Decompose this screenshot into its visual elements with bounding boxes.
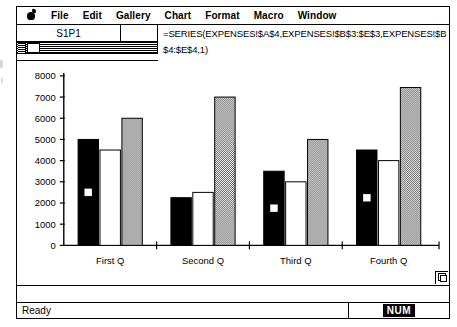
x-axis-category-label: First Q	[96, 255, 124, 266]
bar[interactable]	[215, 97, 235, 245]
menu-item-edit[interactable]: Edit	[76, 7, 109, 24]
status-indicators: NUM	[349, 303, 449, 318]
scan-artifact	[1, 78, 3, 83]
menu-item-window[interactable]: Window	[291, 7, 344, 24]
scrollbar-thumb[interactable]	[27, 43, 40, 53]
series-selection-handle[interactable]	[363, 194, 370, 201]
menu-item-file[interactable]: File	[44, 7, 76, 24]
grow-box-front-square	[440, 275, 447, 282]
excel-chart-window: File Edit Gallery Chart Format Macro Win…	[16, 6, 450, 308]
bar[interactable]	[122, 118, 142, 245]
status-message: Ready	[17, 303, 349, 318]
series-selection-handle[interactable]	[270, 205, 277, 212]
num-lock-badge: NUM	[383, 304, 415, 317]
window-grow-box[interactable]	[435, 271, 448, 284]
series-selection-handle[interactable]	[85, 189, 92, 196]
x-axis-category-label: Second Q	[182, 255, 224, 266]
horizontal-scrollbar[interactable]	[17, 42, 158, 54]
y-axis-tick-label: 0	[51, 240, 56, 251]
menu-item-gallery[interactable]: Gallery	[109, 7, 158, 24]
formula-input[interactable]: =SERIES(EXPENSES!$A$4,EXPENSES!$B$3:$E$3…	[158, 25, 449, 61]
name-box[interactable]: S1P1	[17, 25, 121, 42]
x-axis-category-label: Fourth Q	[370, 255, 407, 266]
menu-item-chart[interactable]: Chart	[158, 7, 199, 24]
y-axis-tick-label: 4000	[35, 155, 56, 166]
bar[interactable]	[171, 198, 191, 246]
scan-artifact	[0, 60, 3, 68]
y-axis-tick-label: 8000	[35, 70, 56, 81]
y-axis-tick-label: 2000	[35, 197, 56, 208]
bar-chart[interactable]: 010002000300040005000600070008000First Q…	[17, 62, 449, 285]
menu-bar: File Edit Gallery Chart Format Macro Win…	[17, 7, 449, 25]
bar[interactable]	[400, 88, 420, 246]
bar[interactable]	[308, 139, 328, 245]
bar[interactable]	[378, 161, 398, 246]
y-axis-tick-label: 5000	[35, 134, 56, 145]
status-bar: Ready NUM	[16, 302, 450, 319]
x-axis-category-label: Third Q	[280, 255, 311, 266]
bar[interactable]	[193, 192, 213, 245]
menu-item-format[interactable]: Format	[198, 7, 247, 24]
formula-bar-button-area	[121, 25, 158, 42]
formula-bar: S1P1 =SERIES(EXPENSES!$A$4,EXPENSES!$B$3…	[17, 25, 449, 61]
y-axis-tick-label: 6000	[35, 113, 56, 124]
menu-item-macro[interactable]: Macro	[247, 7, 291, 24]
y-axis-tick-label: 7000	[35, 92, 56, 103]
screenshot-root: File Edit Gallery Chart Format Macro Win…	[0, 0, 457, 327]
apple-menu-icon[interactable]	[23, 8, 44, 24]
name-box-value: S1P1	[56, 28, 80, 39]
y-axis-tick-label: 3000	[35, 176, 56, 187]
y-axis-tick-label: 1000	[35, 219, 56, 230]
chart-canvas[interactable]: 010002000300040005000600070008000First Q…	[17, 62, 449, 285]
bar[interactable]	[100, 150, 120, 245]
scroll-left-arrow-icon[interactable]	[18, 43, 26, 53]
apple-icon	[27, 10, 36, 20]
bar[interactable]	[286, 182, 306, 246]
